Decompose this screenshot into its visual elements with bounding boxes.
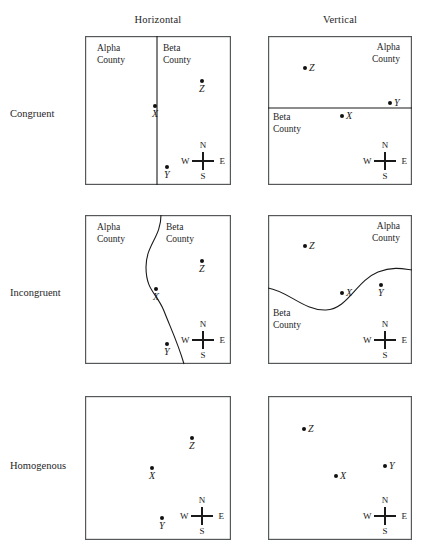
compass-label-south: S [199, 527, 204, 536]
map-point-label-z: Z [199, 83, 205, 94]
map-panel-homogenous-vertical: ZYXNSWE [268, 396, 412, 540]
compass-label-east: E [402, 512, 408, 521]
compass-label-east: E [220, 336, 226, 345]
compass-label-north: N [200, 141, 207, 150]
compass-rose: NSWE [363, 496, 407, 536]
compass-label-north: N [382, 141, 389, 150]
county-label-beta-county: BetaCounty [163, 43, 191, 66]
map-point-label-z: Z [199, 263, 205, 274]
map-point-label-x: X [346, 287, 352, 298]
county-label-line2: County [273, 124, 301, 136]
county-label-alpha-county: AlphaCounty [97, 43, 125, 66]
compass-label-south: S [382, 172, 387, 181]
county-label-line2: County [97, 234, 125, 246]
map-point-z [303, 244, 307, 248]
compass-rose: NSWE [181, 141, 225, 181]
compass-label-east: E [219, 512, 225, 521]
compass-rose: NSWE [363, 320, 407, 360]
county-label-beta-county: BetaCounty [273, 308, 301, 331]
map-point-label-z: Z [309, 62, 315, 73]
map-point-label-x: X [149, 470, 155, 481]
county-label-line2: County [372, 54, 400, 66]
compass-label-west: W [181, 157, 190, 166]
county-label-alpha-county: AlphaCounty [372, 221, 400, 244]
compass-cross-horizontal [374, 160, 396, 162]
map-point-label-y: Y [164, 169, 170, 180]
compass-label-west: W [180, 512, 189, 521]
county-label-line2: County [372, 233, 400, 245]
compass-cross-horizontal [374, 339, 396, 341]
map-panel-congruent-horizontal: AlphaCountyBetaCountyZXYNSWE [85, 36, 231, 185]
compass-label-south: S [200, 351, 205, 360]
county-label-line1: Beta [166, 222, 194, 234]
county-label-line2: County [97, 55, 125, 67]
row-label-homogenous: Homogenous [10, 460, 66, 471]
compass-label-west: W [363, 512, 372, 521]
county-label-line1: Beta [163, 43, 191, 55]
map-point-label-x: X [152, 108, 158, 119]
map-point-z [303, 66, 307, 70]
county-label-alpha-county: AlphaCounty [97, 222, 125, 245]
compass-rose: NSWE [180, 496, 224, 536]
map-point-label-x: X [153, 291, 159, 302]
county-label-beta-county: BetaCounty [273, 112, 301, 135]
county-label-line1: Beta [273, 308, 301, 320]
row-label-congruent: Congruent [10, 108, 54, 119]
map-panel-homogenous-horizontal: ZXYNSWE [85, 396, 231, 540]
row-label-incongruent: Incongruent [10, 287, 61, 298]
compass-label-north: N [382, 320, 389, 329]
county-label-beta-county: BetaCounty [166, 222, 194, 245]
map-point-label-y: Y [389, 460, 395, 471]
compass-label-west: W [363, 157, 372, 166]
map-point-label-z: Z [308, 423, 314, 434]
county-label-line2: County [166, 234, 194, 246]
compass-label-south: S [200, 172, 205, 181]
compass-label-north: N [200, 320, 207, 329]
column-header-vertical: Vertical [280, 14, 400, 25]
map-point-label-y: Y [394, 97, 400, 108]
county-label-line2: County [273, 320, 301, 332]
compass-label-west: W [363, 336, 372, 345]
compass-cross-horizontal [191, 515, 213, 517]
map-panel-incongruent-vertical: AlphaCountyBetaCountyZYXNSWE [268, 215, 412, 364]
compass-label-east: E [220, 157, 226, 166]
compass-cross-horizontal [374, 515, 396, 517]
map-point-x [334, 474, 338, 478]
map-point-label-y: Y [378, 287, 384, 298]
compass-label-south: S [382, 351, 387, 360]
map-point-label-y: Y [164, 346, 170, 357]
map-point-x [340, 291, 344, 295]
map-point-label-z: Z [309, 240, 315, 251]
map-point-z [302, 427, 306, 431]
map-point-x [340, 114, 344, 118]
county-label-alpha-county: AlphaCounty [372, 42, 400, 65]
map-panel-incongruent-horizontal: AlphaCountyBetaCountyZXYNSWE [85, 215, 231, 364]
map-point-y [383, 464, 387, 468]
map-point-label-x: X [346, 110, 352, 121]
map-point-label-x: X [340, 470, 346, 481]
map-panel-congruent-vertical: AlphaCountyBetaCountyZYXNSWE [268, 36, 412, 185]
county-label-line1: Alpha [372, 221, 400, 233]
compass-rose: NSWE [181, 320, 225, 360]
figure-root: HorizontalVertical CongruentIncongruentH… [0, 0, 422, 554]
county-label-line1: Alpha [372, 42, 400, 54]
compass-label-north: N [199, 496, 206, 505]
county-label-line2: County [163, 55, 191, 67]
compass-cross-horizontal [192, 160, 214, 162]
county-label-line1: Alpha [97, 43, 125, 55]
compass-label-north: N [382, 496, 389, 505]
map-point-y [388, 101, 392, 105]
map-point-label-y: Y [159, 520, 165, 531]
compass-cross-horizontal [192, 339, 214, 341]
county-label-line1: Alpha [97, 222, 125, 234]
compass-label-south: S [382, 527, 387, 536]
compass-label-west: W [181, 336, 190, 345]
map-point-label-z: Z [189, 440, 195, 451]
compass-label-east: E [402, 157, 408, 166]
compass-label-east: E [402, 336, 408, 345]
compass-rose: NSWE [363, 141, 407, 181]
county-label-line1: Beta [273, 112, 301, 124]
column-header-horizontal: Horizontal [98, 14, 218, 25]
